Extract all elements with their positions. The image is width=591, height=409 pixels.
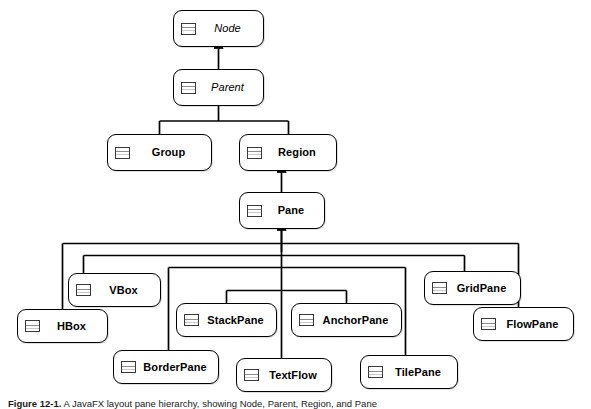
uml-node-anchorpane[interactable]: AnchorPane	[291, 303, 402, 337]
uml-node-label: Parent	[200, 82, 263, 93]
uml-node-label: GridPane	[451, 283, 520, 294]
uml-node-group[interactable]: Group	[107, 134, 212, 171]
uml-class-icon	[368, 366, 383, 378]
uml-class-icon	[481, 318, 496, 330]
figure-caption-label: Figure 12-1.	[8, 398, 61, 409]
uml-class-icon	[115, 147, 130, 159]
uml-node-label: Region	[266, 147, 336, 158]
uml-node-hbox[interactable]: HBox	[17, 309, 108, 343]
uml-node-label: Node	[200, 23, 263, 34]
uml-node-gridpane[interactable]: GridPane	[424, 271, 521, 305]
uml-class-icon	[432, 282, 447, 294]
uml-node-pane[interactable]: Pane	[239, 192, 325, 229]
node-layer: Node Parent Group Region Pane VBox HBox	[0, 0, 591, 409]
uml-node-label: HBox	[44, 321, 107, 332]
uml-class-icon	[247, 147, 262, 159]
uml-class-icon	[247, 205, 262, 217]
uml-node-flowpane[interactable]: FlowPane	[473, 307, 574, 341]
uml-node-label: Group	[134, 147, 211, 158]
uml-node-stackpane[interactable]: StackPane	[176, 303, 277, 337]
uml-class-icon	[299, 314, 314, 326]
uml-node-label: Pane	[266, 205, 324, 216]
uml-class-icon	[121, 361, 136, 373]
uml-node-label: TilePane	[387, 367, 457, 378]
uml-node-label: FlowPane	[500, 319, 573, 330]
uml-node-vbox[interactable]: VBox	[68, 273, 161, 307]
uml-node-label: VBox	[95, 285, 160, 296]
figure-caption-text: A JavaFX layout pane hierarchy, showing …	[61, 398, 377, 409]
uml-class-icon	[76, 284, 91, 296]
uml-node-label: AnchorPane	[318, 315, 401, 326]
uml-class-icon	[184, 314, 199, 326]
figure-caption: Figure 12-1. A JavaFX layout pane hierar…	[8, 398, 583, 409]
uml-class-icon	[181, 23, 196, 35]
uml-class-icon	[244, 369, 259, 381]
uml-node-borderpane[interactable]: BorderPane	[113, 350, 219, 384]
uml-node-textflow[interactable]: TextFlow	[236, 358, 332, 392]
uml-node-node[interactable]: Node	[173, 10, 264, 47]
uml-class-icon	[25, 320, 40, 332]
uml-node-label: TextFlow	[263, 370, 331, 381]
uml-node-tilepane[interactable]: TilePane	[360, 355, 458, 389]
uml-node-parent[interactable]: Parent	[173, 69, 264, 106]
uml-node-label: StackPane	[203, 315, 276, 326]
uml-class-diagram: Node Parent Group Region Pane VBox HBox	[0, 0, 591, 409]
uml-node-label: BorderPane	[140, 362, 218, 373]
uml-node-region[interactable]: Region	[239, 134, 337, 171]
uml-class-icon	[181, 82, 196, 94]
